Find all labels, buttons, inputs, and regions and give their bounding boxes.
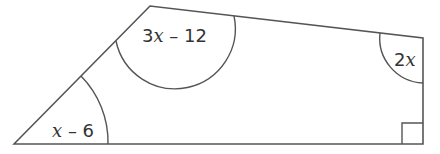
quadrilateral-diagram: x – 6 3x – 12 2x [0,0,440,154]
right-angle-marker [402,123,423,144]
angle-label-top-right: 2x [394,49,416,70]
angle-label-top-left: 3x – 12 [142,25,207,46]
angle-label-bottom-left: x – 6 [52,120,94,141]
